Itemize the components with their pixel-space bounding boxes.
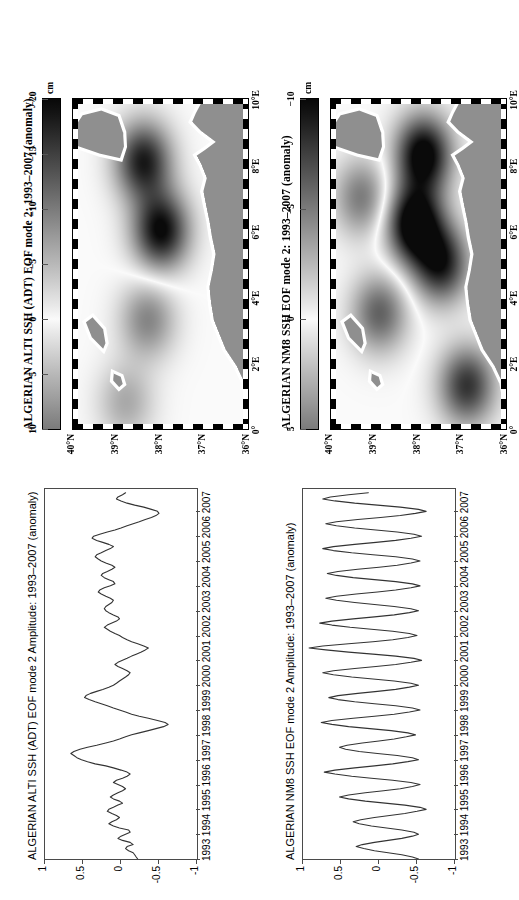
ts-nm8-xtick-9: 2002	[459, 615, 470, 637]
ts-alti-ytickmark-4	[196, 860, 197, 864]
ts-alti-xtick-1: 1994	[201, 814, 212, 836]
ts-nm8-xtickmark-13	[454, 536, 458, 537]
ts-alti-xtick-2: 1995	[201, 789, 212, 811]
ts-nm8-xtickmark-5	[454, 735, 458, 736]
ts-nm8-xtickmark-1	[454, 834, 458, 835]
map-alti-cbtickmark-3	[42, 264, 48, 265]
ts-nm8-xtick-12: 2005	[459, 541, 470, 563]
ts-alti-xtick-0: 1993	[201, 839, 212, 861]
ts-nm8-xtickmark-4	[454, 760, 458, 761]
ts-alti-xtickmark-14	[196, 511, 200, 512]
map-nm8-frame-top	[331, 99, 336, 429]
ts-alti-xtickmark-9	[196, 636, 200, 637]
ts-nm8-xtick-11: 2004	[459, 566, 470, 588]
ts-nm8-xtick-14: 2007	[459, 491, 470, 513]
map-nm8-cbtick-3: −10	[286, 89, 296, 109]
map-nm8-lon-4: 8°E	[509, 153, 519, 179]
map-nm8-lon-5: 10°E	[509, 87, 519, 113]
ts-alti-xtick-14: 2007	[201, 491, 212, 513]
ts-nm8-ytickmark-4	[454, 860, 455, 864]
map-nm8-cbtick-1: 0	[286, 309, 296, 329]
map-alti-frame-bottom	[243, 99, 248, 429]
ts-nm8-xtickmark-11	[454, 586, 458, 587]
ts-alti-xtick-10: 2003	[201, 590, 212, 612]
map-alti-frame-left	[73, 424, 248, 429]
map-nm8-lat-2: 38°N	[412, 434, 422, 462]
ts-alti-xtickmark-3	[196, 785, 200, 786]
ts-nm8-ytick-3: -0.5	[409, 866, 420, 894]
map-nm8-title: ALGERIAN NM8 SSH EOF mode 2: 1993–2007 (…	[280, 135, 292, 430]
map-nm8-lon-3: 6°E	[509, 219, 519, 245]
ts-nm8-ytickmark-1	[340, 860, 341, 864]
ts-nm8-xtickmark-9	[454, 636, 458, 637]
ts-nm8-xtickmark-6	[454, 710, 458, 711]
map-alti-lon-1: 2°E	[251, 351, 261, 377]
ts-alti-ytick-1: 0.5	[75, 866, 86, 894]
ts-alti-xtick-11: 2004	[201, 566, 212, 588]
map-nm8-cbtickmark-0	[300, 429, 306, 430]
ts-nm8-xtickmark-12	[454, 561, 458, 562]
map-alti-cbtick-4: −10	[28, 199, 38, 219]
map-alti-cbtickmark-1	[42, 374, 48, 375]
ts-alti-ytick-0: 1	[37, 866, 48, 894]
map-nm8-lon-2: 4°E	[509, 285, 519, 311]
ts-nm8-xtick-1: 1994	[459, 814, 470, 836]
ts-alti-xtickmark-7	[196, 685, 200, 686]
map-alti-lon-3: 6°E	[251, 219, 261, 245]
map-alti-cbtick-0: 10	[28, 419, 38, 439]
map-alti-frame-right	[73, 99, 248, 104]
ts-nm8-ytickmark-2	[378, 860, 379, 864]
map-nm8-cbtickmark-1	[300, 319, 306, 320]
map-nm8-lon-0: 0°	[509, 417, 519, 443]
ts-nm8-xtick-2: 1995	[459, 789, 470, 811]
ts-alti-xtick-13: 2006	[201, 516, 212, 538]
ts-nm8-xtick-13: 2006	[459, 516, 470, 538]
map-alti-cbtickmark-4	[42, 209, 48, 210]
map-alti-cbtickmark-5	[42, 154, 48, 155]
map-nm8-cbtickmark-3	[300, 99, 306, 100]
map-nm8-colorbar-unit: cm	[303, 82, 313, 94]
map-alti-cbtick-3: −5	[28, 254, 38, 274]
ts-alti-xtickmark-5	[196, 735, 200, 736]
timeseries-nm8-plot-area	[302, 488, 456, 860]
ts-alti-xtickmark-11	[196, 586, 200, 587]
map-alti-cbtickmark-6	[42, 99, 48, 100]
map-nm8-canvas	[331, 99, 506, 429]
map-nm8-frame-left	[331, 424, 506, 429]
ts-alti-xtickmark-12	[196, 561, 200, 562]
map-alti-lat-3: 37°N	[197, 434, 207, 462]
ts-nm8-xtickmark-10	[454, 611, 458, 612]
ts-nm8-xtick-0: 1993	[459, 839, 470, 861]
ts-alti-ytickmark-2	[120, 860, 121, 864]
map-alti-lon-5: 10°E	[251, 87, 261, 113]
map-alti-field	[72, 98, 249, 430]
map-alti-cbtick-2: 0	[28, 309, 38, 329]
map-nm8-cbtick-2: −5	[286, 199, 296, 219]
ts-nm8-xtick-8: 2001	[459, 640, 470, 662]
ts-alti-ytick-4: -1	[189, 866, 200, 894]
ts-nm8-ytickmark-0	[302, 860, 303, 864]
map-nm8-cbtickmark-2	[300, 209, 306, 210]
map-nm8-lat-3: 37°N	[455, 434, 465, 462]
ts-nm8-xtickmark-3	[454, 785, 458, 786]
map-alti-lat-1: 39°N	[110, 434, 120, 462]
ts-alti-xtick-3: 1996	[201, 764, 212, 786]
ts-alti-ytick-2: 0	[113, 866, 124, 894]
ts-alti-xtickmark-10	[196, 611, 200, 612]
ts-alti-xtick-6: 1999	[201, 690, 212, 712]
map-alti-cbtickmark-2	[42, 319, 48, 320]
timeseries-nm8-line	[303, 489, 455, 859]
ts-alti-xtickmark-13	[196, 536, 200, 537]
ts-nm8-xtickmark-7	[454, 685, 458, 686]
map-nm8-lon-1: 2°E	[509, 351, 519, 377]
map-alti-frame-top	[73, 99, 78, 429]
map-alti-lat-2: 38°N	[154, 434, 164, 462]
timeseries-alti-title: ALGERIAN ALTI SSH (ADT) EOF mode 2 Ampli…	[26, 492, 38, 860]
ts-nm8-xtickmark-0	[454, 859, 458, 860]
map-nm8-frame-bottom	[501, 99, 506, 429]
timeseries-alti-line	[45, 489, 197, 859]
map-nm8-cbtick-0: 5	[286, 419, 296, 439]
ts-nm8-xtick-10: 2003	[459, 590, 470, 612]
